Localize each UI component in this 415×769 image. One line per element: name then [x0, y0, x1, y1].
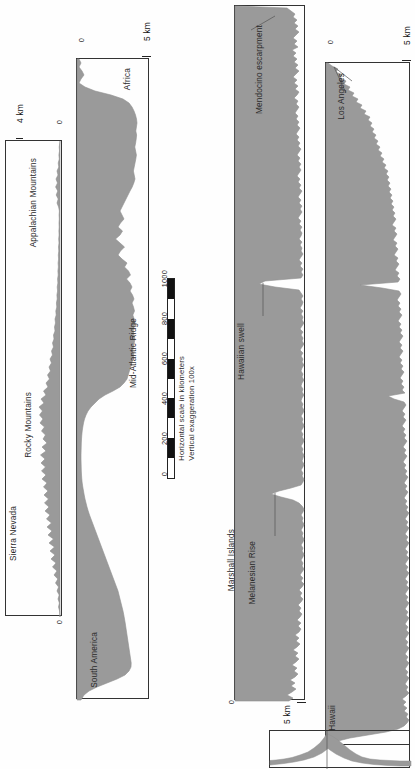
feature-label-africa: Africa [124, 68, 132, 90]
panel-pacific-hawaii-profile [326, 63, 409, 744]
tick-pacific-north-depth [297, 702, 306, 703]
axis-label-pacific-hawaii-zero: 0 [327, 40, 334, 44]
feature-label-south-america: South America [91, 632, 99, 688]
inset-hawaii-profile [270, 731, 409, 767]
tick-pacific-hawaii-depth [402, 60, 411, 61]
hawaii-inset-svg [270, 731, 411, 769]
scale-bar [167, 278, 175, 479]
tick-atlantic-bottom [142, 56, 151, 57]
scale-tick-label-800: 800 [161, 312, 168, 325]
axis-label-atlantic-depth: 5 km [143, 22, 151, 41]
scale-caption-exaggeration: Vertical exaggeration 100x [188, 366, 196, 461]
scale-tick-label-600: 600 [161, 352, 168, 365]
axis-label-pacific-hawaii-depth: 5 km [403, 26, 411, 45]
axis-label-na-zero-bottom: 0 [56, 620, 63, 624]
panel-pacific-hawaii [325, 62, 410, 745]
axis-label-na-zero-top: 0 [56, 120, 63, 124]
feature-label-mid-atlantic-ridge: Mid-Atlantic Ridge [130, 318, 138, 388]
atlantic-profile-svg [77, 59, 150, 700]
feature-label-hawaiian-swell: Hawaiian swell [238, 323, 246, 380]
axis-label-atlantic-zero: 0 [78, 38, 85, 42]
feature-label-hawaii: Hawaii [329, 705, 337, 731]
profiles-figure: 4 km 0 0 Appalachian Mountains Rocky Mou… [0, 0, 415, 769]
feature-label-rocky-mountains: Rocky Mountains [25, 392, 33, 458]
feature-label-mendocino-escarpment: Mendocino escarpment [256, 25, 264, 114]
feature-label-melanesian-rise: Melanesian Rise [249, 541, 257, 605]
axis-label-pacific-north-depth: 5 km [283, 705, 291, 724]
pacific-hawaii-profile-svg [326, 63, 411, 746]
axis-label-pacific-north-zero: 0 [228, 700, 235, 704]
scale-caption-horizontal: Horizontal scale in kilometers [178, 356, 186, 461]
feature-label-marshall-islands: Marshall Islands [228, 529, 236, 591]
axis-label-na-top: 4 km [16, 104, 24, 123]
feature-label-appalachian-mountains: Appalachian Mountains [30, 158, 38, 247]
scale-tick-label-400: 400 [161, 392, 168, 405]
feature-label-los-angeles: Los Angeles [338, 73, 346, 120]
scale-tick-label-1000: 1000 [161, 270, 168, 287]
feature-label-sierra-nevada: Sierra Nevada [10, 506, 18, 561]
inset-hawaii-extension [269, 730, 410, 768]
scale-tick-label-0: 0 [161, 472, 168, 476]
scale-tick-label-200: 200 [161, 432, 168, 445]
tick-na-top [16, 138, 23, 139]
